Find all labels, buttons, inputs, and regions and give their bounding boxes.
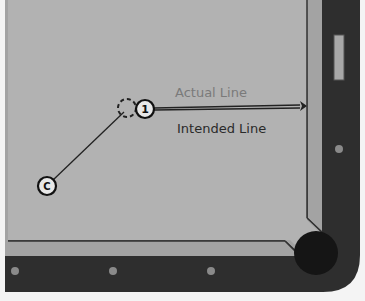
rail-sight-marker [334,35,344,80]
diamond-right [335,145,343,153]
intended-line-label: Intended Line [177,121,266,136]
actual-line-label: Actual Line [175,85,247,100]
felt-surface [8,0,307,240]
corner-pocket [294,231,338,275]
object-ball-label: 1 [141,103,149,116]
diamond-bottom-2 [109,267,117,275]
bottom-cushion [8,241,300,256]
diamond-bottom-3 [207,267,215,275]
right-cushion [307,0,322,232]
billiards-diagram: 1 C Actual Line Intended Line [0,0,365,301]
diamond-bottom-1 [11,267,19,275]
cue-ball-label: C [43,181,50,192]
